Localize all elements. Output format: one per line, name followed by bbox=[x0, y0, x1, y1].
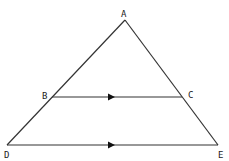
parallel-arrow-icon bbox=[108, 94, 115, 101]
label-c: C bbox=[188, 90, 193, 100]
label-b: B bbox=[42, 91, 47, 101]
segment-ae bbox=[125, 20, 218, 145]
parallel-arrow-icon bbox=[108, 142, 115, 149]
triangle-diagram: A B C D E bbox=[0, 0, 229, 161]
label-e: E bbox=[218, 150, 223, 160]
segment-ad bbox=[7, 20, 125, 145]
label-d: D bbox=[4, 150, 9, 160]
label-a: A bbox=[121, 9, 127, 19]
